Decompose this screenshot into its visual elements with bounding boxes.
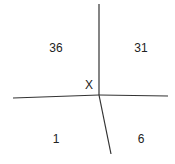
right-horizontal-line [99, 95, 168, 96]
region-bottom-left-value: 1 [53, 133, 60, 145]
center-label: X [85, 79, 93, 91]
region-top-right-value: 31 [134, 42, 147, 54]
region-top-left-value: 36 [49, 42, 62, 54]
bottom-slanted-line [99, 95, 111, 154]
left-horizontal-line [13, 95, 99, 98]
region-bottom-right-value: 6 [138, 133, 145, 145]
quadrant-diagram: 36 31 X 1 6 [0, 0, 175, 164]
